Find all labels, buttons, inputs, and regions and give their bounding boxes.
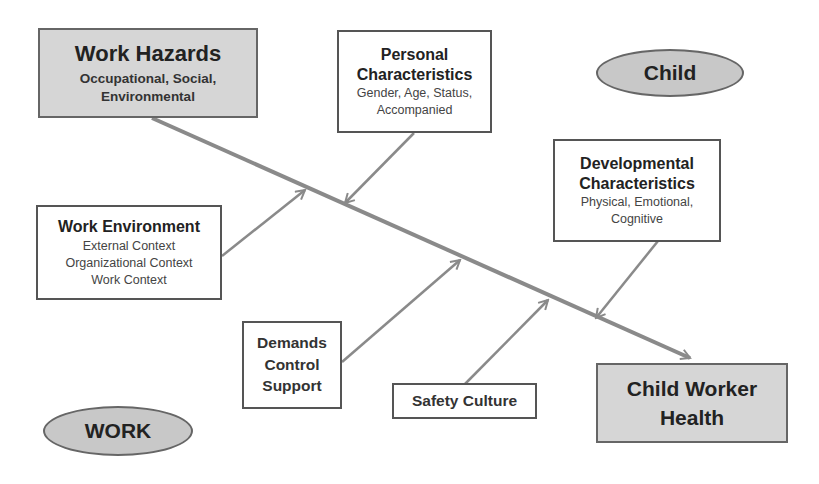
work-label: WORK bbox=[85, 419, 152, 443]
child-oval: Child bbox=[596, 49, 744, 97]
arrow-developmental bbox=[596, 241, 658, 318]
work-oval: WORK bbox=[43, 406, 193, 456]
safety-culture-box: Safety Culture bbox=[392, 383, 537, 419]
work-environment-sub-1: External Context bbox=[83, 239, 175, 254]
personal-title-1: Personal bbox=[381, 45, 449, 64]
work-environment-title: Work Environment bbox=[58, 217, 200, 236]
developmental-title-2: Characteristics bbox=[579, 174, 695, 193]
dcs-line-3: Support bbox=[262, 377, 321, 396]
work-hazards-title: Work Hazards bbox=[75, 41, 221, 67]
dcs-line-2: Control bbox=[264, 356, 319, 375]
outcome-title-2: Health bbox=[660, 405, 724, 430]
developmental-title-1: Developmental bbox=[580, 154, 694, 173]
child-label: Child bbox=[644, 61, 697, 85]
personal-title-2: Characteristics bbox=[357, 65, 473, 84]
safety-culture-label: Safety Culture bbox=[412, 392, 517, 411]
arrow-safety bbox=[465, 300, 548, 384]
developmental-characteristics-box: Developmental Characteristics Physical, … bbox=[553, 139, 721, 242]
developmental-sub-2: Cognitive bbox=[611, 212, 663, 227]
arrow-personal bbox=[345, 133, 414, 203]
personal-characteristics-box: Personal Characteristics Gender, Age, St… bbox=[337, 30, 492, 133]
developmental-sub-1: Physical, Emotional, bbox=[581, 195, 694, 210]
work-hazards-sub1: Occupational, Social, bbox=[80, 71, 217, 87]
arrow-work-environment bbox=[222, 190, 305, 256]
dcs-line-1: Demands bbox=[257, 334, 327, 353]
work-environment-sub-2: Organizational Context bbox=[65, 256, 192, 271]
personal-sub-2: Accompanied bbox=[377, 103, 453, 118]
work-hazards-sub2: Environmental bbox=[101, 89, 195, 105]
work-hazards-box: Work Hazards Occupational, Social, Envir… bbox=[38, 28, 258, 118]
work-environment-box: Work Environment External Context Organi… bbox=[36, 205, 222, 300]
child-worker-health-box: Child Worker Health bbox=[596, 363, 788, 443]
personal-sub-1: Gender, Age, Status, bbox=[357, 86, 472, 101]
work-environment-sub-3: Work Context bbox=[91, 273, 167, 288]
arrow-dcs bbox=[342, 260, 460, 362]
outcome-title-1: Child Worker bbox=[627, 376, 757, 401]
demands-control-support-box: Demands Control Support bbox=[242, 321, 342, 409]
